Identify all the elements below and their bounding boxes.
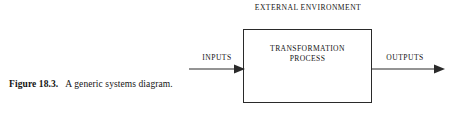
transformation-process-label: TRANSFORMATION PROCESS xyxy=(243,44,372,63)
figure-caption-line-2: diagram. xyxy=(139,79,173,89)
inputs-arrow xyxy=(189,62,245,76)
outputs-label: OUTPUTS xyxy=(374,53,436,62)
figure-caption-line-1: A generic systems xyxy=(65,79,136,89)
transformation-process-box xyxy=(243,29,372,103)
process-label-line-2: PROCESS xyxy=(243,54,372,64)
figure-caption-label: Figure 18.3. xyxy=(9,79,58,89)
outputs-arrow xyxy=(371,62,445,76)
figure-caption: Figure 18.3.A generic systems diagram. xyxy=(9,79,187,91)
inputs-label: INPUTS xyxy=(189,53,245,62)
figure-container: EXTERNAL ENVIRONMENT TRANSFORMATION PROC… xyxy=(0,0,452,117)
process-label-line-1: TRANSFORMATION xyxy=(243,44,372,54)
external-environment-label: EXTERNAL ENVIRONMENT xyxy=(243,3,373,12)
